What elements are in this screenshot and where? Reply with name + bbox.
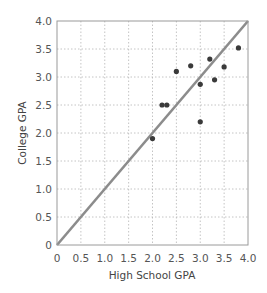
- x-axis-label: High School GPA: [109, 269, 196, 281]
- x-tick-label: 4.0: [240, 252, 257, 264]
- data-point: [198, 119, 203, 124]
- y-tick-label: 3.0: [35, 71, 52, 83]
- x-tick-label: 3.5: [216, 252, 233, 264]
- y-axis-label: College GPA: [16, 100, 28, 164]
- data-point: [236, 45, 241, 50]
- data-point: [222, 64, 227, 69]
- y-tick-label: 0.5: [35, 211, 52, 223]
- x-tick-label: 0: [54, 252, 61, 264]
- x-tick-label: 1.5: [120, 252, 137, 264]
- y-tick-label: 4.0: [35, 15, 52, 27]
- x-tick-label: 1.0: [96, 252, 113, 264]
- data-point: [207, 56, 212, 61]
- y-tick-label: 2.0: [35, 127, 52, 139]
- data-points: [150, 45, 241, 141]
- x-tick-label: 2.5: [168, 252, 185, 264]
- data-point: [159, 102, 164, 107]
- scatter-chart: 00.51.01.52.02.53.03.54.0 00.51.01.52.02…: [0, 0, 267, 293]
- y-tick-label: 1.5: [35, 155, 52, 167]
- data-point: [212, 77, 217, 82]
- x-tick-label: 0.5: [73, 252, 90, 264]
- data-point: [188, 63, 193, 68]
- y-tick-label: 3.5: [35, 43, 52, 55]
- data-point: [164, 102, 169, 107]
- data-point: [198, 82, 203, 87]
- y-tick-label: 0: [45, 239, 52, 251]
- y-tick-label: 2.5: [35, 99, 52, 111]
- x-axis-ticks: 00.51.01.52.02.53.03.54.0: [54, 252, 257, 264]
- data-point: [150, 136, 155, 141]
- y-axis-ticks: 00.51.01.52.02.53.03.54.0: [35, 15, 52, 251]
- x-tick-label: 2.0: [144, 252, 161, 264]
- x-tick-label: 3.0: [192, 252, 209, 264]
- y-tick-label: 1.0: [35, 183, 52, 195]
- data-point: [174, 69, 179, 74]
